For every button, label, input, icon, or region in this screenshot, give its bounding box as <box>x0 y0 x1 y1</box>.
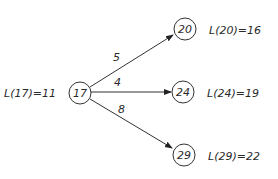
node-20-label: 20 <box>178 23 192 36</box>
annotation-L24: L(24)=19 <box>207 87 259 100</box>
node-24-label: 24 <box>176 86 190 99</box>
node-20: 20 <box>174 18 196 40</box>
edge-weight-17-29: 8 <box>118 103 125 116</box>
node-17: 17 <box>69 82 91 104</box>
annotation-L20: L(20)=16 <box>209 24 261 37</box>
edge-17-29 <box>90 99 172 148</box>
node-24: 24 <box>172 81 194 103</box>
graph-diagram: 5 4 8 17 20 24 29 L(17)=11 L(20)=16 L(24… <box>0 0 278 179</box>
node-29: 29 <box>173 144 195 166</box>
edge-weight-17-20: 5 <box>113 51 120 64</box>
node-17-label: 17 <box>73 87 87 100</box>
edge-17-20 <box>90 35 173 87</box>
annotation-L29: L(29)=22 <box>208 150 260 163</box>
edge-weight-17-24: 4 <box>114 76 121 89</box>
annotation-L17: L(17)=11 <box>4 87 56 100</box>
node-29-label: 29 <box>177 149 191 162</box>
